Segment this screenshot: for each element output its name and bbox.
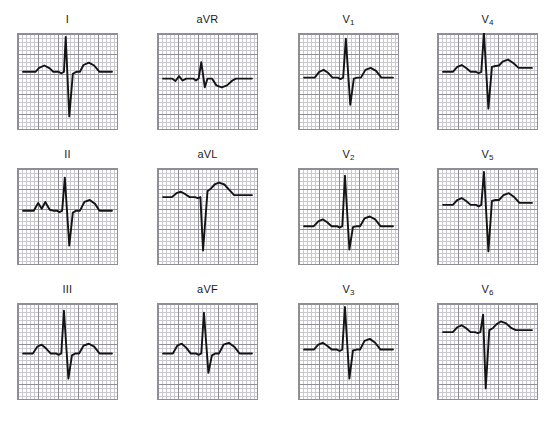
lead-panel-V6: V6: [437, 303, 538, 400]
lead-label-V4: V4: [437, 13, 538, 27]
ecg-grid: [298, 168, 399, 265]
ecg-grid: [157, 33, 258, 130]
lead-panel-V3: V3: [298, 303, 399, 400]
ecg-12-lead-figure: IaVRV1V4IIaVLV2V5IIIaVFV3V6: [0, 0, 548, 426]
ecg-grid: [157, 168, 258, 265]
lead-label-main: V: [481, 283, 489, 295]
lead-label-main: V: [481, 148, 489, 160]
lead-label-aVL: aVL: [157, 148, 258, 160]
lead-label-I: I: [17, 13, 118, 25]
ecg-grid: [298, 303, 399, 400]
lead-panel-II: II: [17, 168, 118, 265]
ecg-grid: [437, 33, 538, 130]
lead-label-subscript: 4: [489, 18, 494, 27]
ecg-grid: [17, 168, 118, 265]
ecg-grid: [437, 168, 538, 265]
lead-label-main: V: [342, 148, 350, 160]
lead-panel-V5: V5: [437, 168, 538, 265]
lead-label-main: I: [66, 13, 69, 25]
lead-label-main: aVF: [197, 283, 218, 295]
lead-panel-aVR: aVR: [157, 33, 258, 130]
lead-label-subscript: 6: [489, 288, 494, 297]
lead-panel-V2: V2: [298, 168, 399, 265]
lead-label-subscript: 5: [489, 153, 494, 162]
lead-label-main: V: [342, 283, 350, 295]
lead-label-aVF: aVF: [157, 283, 258, 295]
lead-panel-aVL: aVL: [157, 168, 258, 265]
lead-label-main: aVR: [197, 13, 219, 25]
lead-panel-aVF: aVF: [157, 303, 258, 400]
lead-label-V1: V1: [298, 13, 399, 27]
lead-label-main: V: [342, 13, 350, 25]
lead-panel-III: III: [17, 303, 118, 400]
lead-label-subscript: 3: [350, 288, 355, 297]
lead-label-subscript: 1: [350, 18, 355, 27]
ecg-grid: [437, 303, 538, 400]
lead-label-main: aVL: [197, 148, 217, 160]
lead-label-V3: V3: [298, 283, 399, 297]
lead-label-main: III: [63, 283, 73, 295]
lead-label-III: III: [17, 283, 118, 295]
lead-panel-V4: V4: [437, 33, 538, 130]
lead-label-V6: V6: [437, 283, 538, 297]
lead-label-main: V: [481, 13, 489, 25]
lead-label-V2: V2: [298, 148, 399, 162]
lead-label-main: II: [64, 148, 71, 160]
lead-label-II: II: [17, 148, 118, 160]
lead-label-subscript: 2: [350, 153, 355, 162]
ecg-grid: [17, 303, 118, 400]
ecg-grid: [157, 303, 258, 400]
lead-label-aVR: aVR: [157, 13, 258, 25]
lead-label-V5: V5: [437, 148, 538, 162]
lead-panel-I: I: [17, 33, 118, 130]
lead-panel-V1: V1: [298, 33, 399, 130]
ecg-grid: [298, 33, 399, 130]
ecg-grid: [17, 33, 118, 130]
